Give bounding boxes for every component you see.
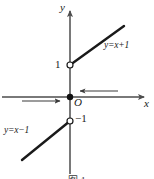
x-axis-label: x [144,98,149,109]
graph-canvas [0,0,154,179]
tick-label-negative-one: −1 [75,113,87,124]
equation-label-upper: y=x+1 [104,41,129,51]
y-axis-label: y [60,2,65,13]
origin-point-dot [67,94,73,100]
origin-label: O [74,97,82,108]
figure-caption: 图 1 [0,172,154,179]
open-point-at-y-negative-1 [67,118,73,124]
tick-label-positive-one: 1 [55,59,61,70]
open-point-at-y-1 [67,62,73,68]
lower-ray-segment [22,121,70,160]
figure-container: y x O 1 −1 y=x+1 y=x−1 图 1 [0,0,154,179]
equation-label-lower: y=x−1 [4,126,29,136]
